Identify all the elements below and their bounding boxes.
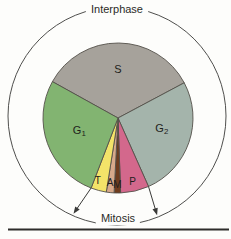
- slice-label-A: A: [107, 177, 114, 188]
- cell-cycle-svg: SG2PMATG1: [0, 0, 231, 239]
- mitosis-arrow-line-left: [76, 188, 91, 210]
- cell-cycle-diagram: SG2PMATG1 Interphase Mitosis: [0, 0, 231, 239]
- slice-label-T: T: [95, 175, 101, 186]
- mitosis-label: Mitosis: [96, 212, 140, 225]
- slice-label-P: P: [129, 175, 136, 186]
- slice-label-M: M: [113, 179, 121, 190]
- mitosis-arrow-line-right: [149, 187, 156, 211]
- mitosis-arrowhead-left: [74, 206, 80, 213]
- mitosis-arrowhead-right: [153, 208, 158, 216]
- interphase-label: Interphase: [86, 3, 148, 16]
- slice-label-S: S: [114, 63, 121, 75]
